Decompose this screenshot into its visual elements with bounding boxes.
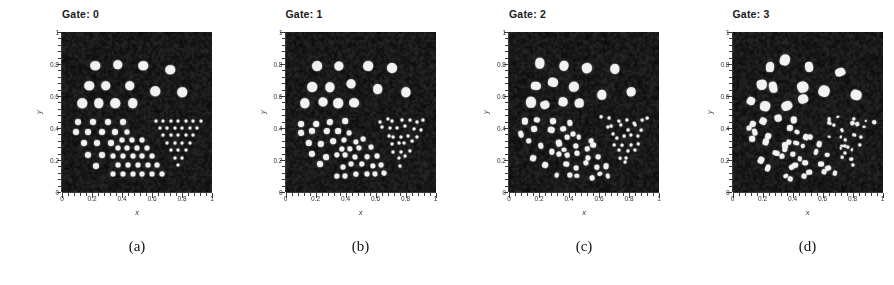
data-point [192, 134, 195, 137]
panel-title: Gate: 1 [286, 8, 323, 20]
y-minor-tick [505, 77, 508, 78]
x-minor-tick [424, 193, 425, 196]
data-point [416, 135, 419, 139]
data-point [402, 87, 411, 97]
x-axis-label: x [135, 208, 139, 217]
data-point [341, 138, 346, 143]
data-point [159, 172, 164, 177]
y-minor-tick [282, 166, 285, 167]
data-point [150, 86, 160, 96]
data-point [620, 143, 624, 146]
data-point [84, 81, 94, 91]
data-point [595, 154, 600, 160]
y-axis-label: y [481, 110, 490, 114]
x-tick-label: 0.2 [311, 195, 320, 202]
data-point [619, 123, 623, 127]
x-minor-tick [515, 193, 516, 196]
data-point [531, 126, 537, 133]
data-point [111, 172, 116, 177]
x-minor-tick [835, 193, 836, 196]
x-minor-tick [751, 193, 752, 196]
data-point [199, 119, 202, 122]
x-minor-tick [292, 193, 293, 196]
data-point [120, 138, 125, 143]
y-minor-tick [729, 154, 732, 155]
x-axis-line [733, 192, 883, 193]
data-point [357, 145, 363, 151]
data-point [863, 126, 866, 129]
data-point [792, 163, 798, 168]
data-point [116, 162, 121, 167]
x-minor-tick [865, 193, 866, 196]
data-point [120, 154, 125, 159]
y-minor-tick [282, 38, 285, 39]
data-point [361, 136, 366, 141]
y-minor-tick [282, 154, 285, 155]
y-axis-label: y [704, 110, 713, 114]
y-minor-tick [282, 70, 285, 71]
y-minor-tick [729, 141, 732, 142]
data-point [828, 135, 831, 138]
data-point [603, 163, 608, 169]
data-point [522, 118, 528, 125]
data-point [399, 150, 402, 153]
data-point [373, 84, 383, 94]
x-minor-tick [394, 193, 395, 196]
data-point [849, 157, 853, 160]
data-point [348, 147, 353, 152]
y-tick-label: 0.2 [273, 157, 282, 164]
data-point [165, 65, 175, 75]
data-point [369, 145, 374, 150]
data-point [832, 170, 837, 176]
data-point [757, 156, 765, 164]
y-tick-label: 0.2 [50, 157, 59, 164]
data-point [353, 171, 359, 176]
x-axis-line [62, 192, 212, 193]
data-point [858, 143, 862, 147]
data-point [637, 134, 641, 137]
y-minor-tick [282, 58, 285, 59]
data-point [419, 128, 422, 131]
data-point [605, 173, 610, 179]
data-point [619, 156, 622, 159]
y-minor-tick [505, 115, 508, 116]
data-point [556, 151, 562, 157]
y-tick-label: 0 [55, 189, 59, 196]
y-minor-tick [58, 38, 61, 39]
x-minor-tick [164, 193, 165, 196]
data-point [363, 61, 373, 71]
data-point [343, 118, 349, 124]
background-grain [286, 32, 436, 192]
x-minor-tick [206, 193, 207, 196]
data-point [562, 147, 567, 152]
data-point [181, 156, 184, 159]
x-tick-label: 0.8 [848, 195, 857, 202]
data-point [334, 173, 339, 178]
x-minor-tick [605, 193, 606, 196]
data-point [309, 150, 316, 157]
data-point [135, 162, 140, 167]
data-point [612, 132, 615, 136]
data-point [387, 135, 390, 138]
data-point [618, 148, 621, 151]
x-minor-tick [328, 193, 329, 196]
y-minor-tick [729, 109, 732, 110]
x-minor-tick [110, 193, 111, 196]
data-point [851, 163, 855, 167]
x-axis-label: x [582, 208, 586, 217]
data-point [549, 149, 555, 156]
figure-panel-row: Gate: 000.20.40.60.8100.20.40.60.81xy(a)… [0, 0, 894, 285]
data-point [378, 162, 383, 168]
data-point [85, 129, 91, 135]
y-minor-tick [505, 134, 508, 135]
y-minor-tick [505, 90, 508, 91]
y-minor-tick [505, 179, 508, 180]
data-point [575, 174, 581, 179]
panel-gate-2: Gate: 200.20.40.60.8100.20.40.60.81xy(c) [447, 0, 671, 285]
data-point [177, 149, 180, 152]
y-tick-label: 0.6 [497, 93, 506, 100]
background-grain [509, 32, 659, 192]
data-point [388, 126, 391, 129]
data-point [184, 149, 187, 152]
data-point [402, 141, 405, 144]
